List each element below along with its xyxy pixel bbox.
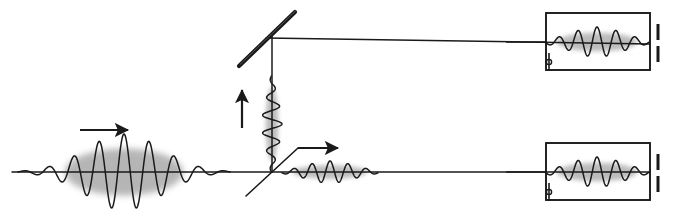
figure-canvas [0,0,681,224]
optics-diagram [0,0,681,224]
